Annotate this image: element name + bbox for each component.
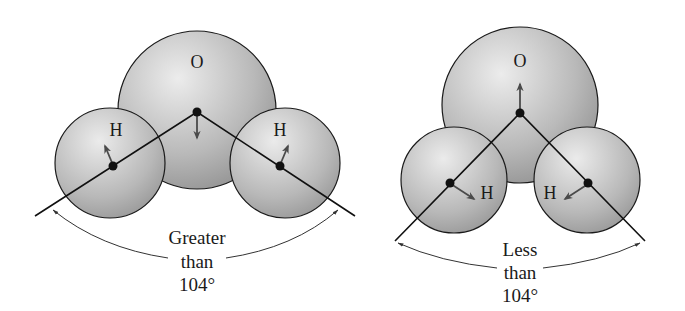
angle-arc-right <box>543 243 640 268</box>
oxygen-nucleus <box>516 109 525 118</box>
hydrogen-nucleus-left <box>446 179 455 188</box>
oxygen-label: O <box>191 52 204 72</box>
angle-label-line2: than <box>181 251 214 272</box>
angle-arc-left <box>398 243 497 268</box>
hydrogen-nucleus-left <box>109 162 118 171</box>
right-molecule: O H H Less than 104° <box>395 27 645 306</box>
angle-label-line3: 104° <box>502 285 538 306</box>
angle-label-line1: Greater <box>169 227 227 248</box>
hydrogen-label-right: H <box>274 120 287 140</box>
oxygen-label: O <box>514 51 527 71</box>
water-molecule-diagram: O H H Greater than 104° O H H Less than … <box>0 0 685 311</box>
left-molecule: O H H Greater than 104° <box>35 31 355 295</box>
hydrogen-label-left: H <box>110 120 123 140</box>
hydrogen-label-left: H <box>481 183 494 203</box>
oxygen-nucleus <box>193 108 202 117</box>
hydrogen-label-right: H <box>544 183 557 203</box>
angle-label-line2: than <box>504 262 537 283</box>
hydrogen-nucleus-right <box>276 162 285 171</box>
hydrogen-nucleus-right <box>584 179 593 188</box>
angle-label-line1: Less <box>503 239 538 260</box>
angle-label-line3: 104° <box>179 274 215 295</box>
